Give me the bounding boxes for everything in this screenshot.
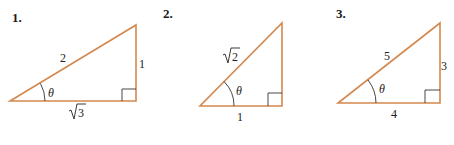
angle-arc-1: [41, 84, 46, 102]
figure-2-number: 2.: [163, 6, 173, 21]
right-angle-marker-3: [425, 90, 440, 103]
figure-2: 2. θ 2 1: [163, 6, 282, 124]
figure-1-number: 1.: [12, 10, 22, 25]
triangles-diagram: 1. θ 2 1 3 2. θ 2 1 3. θ 5 3 4: [0, 0, 454, 145]
angle-label-2: θ: [236, 84, 242, 98]
svg-text:2: 2: [232, 50, 238, 64]
figure-3: 3. θ 5 3 4: [336, 6, 447, 121]
figure-3-number: 3.: [336, 6, 346, 21]
svg-text:3: 3: [78, 106, 84, 120]
right-angle-marker-2: [268, 93, 282, 106]
adjacent-label-3: 4: [391, 107, 397, 121]
right-angle-marker-1: [122, 89, 136, 101]
angle-label-3: θ: [379, 82, 385, 96]
hypotenuse-label-3: 5: [384, 49, 390, 63]
hypotenuse-label-1: 2: [60, 51, 66, 65]
hypotenuse-label-2: 2: [223, 48, 240, 64]
figure-1: 1. θ 2 1 3: [10, 10, 145, 120]
angle-arc-2: [224, 82, 234, 107]
opposite-label-1: 1: [139, 57, 145, 71]
adjacent-label-2: 1: [237, 110, 243, 124]
angle-arc-3: [368, 80, 376, 103]
triangle-1: [10, 25, 136, 101]
opposite-label-3: 3: [441, 59, 447, 73]
adjacent-label-1: 3: [69, 104, 86, 120]
angle-label-1: θ: [48, 86, 54, 100]
